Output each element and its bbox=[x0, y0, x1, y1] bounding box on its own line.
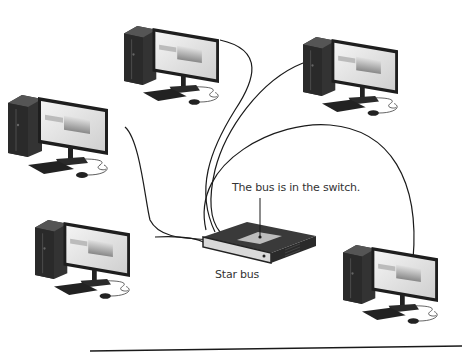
diagram-caption: Star bus bbox=[215, 268, 259, 281]
divider-line bbox=[90, 346, 462, 351]
desktop-computer-icon bbox=[343, 245, 438, 324]
desktop-computer-icon bbox=[303, 37, 398, 116]
desktop-computer-icon bbox=[8, 95, 108, 178]
callout-label: The bus is in the switch. bbox=[232, 181, 360, 194]
star-bus-diagram bbox=[0, 0, 474, 352]
desktop-computer-icon bbox=[35, 220, 130, 299]
desktop-computer-icon bbox=[124, 26, 219, 105]
